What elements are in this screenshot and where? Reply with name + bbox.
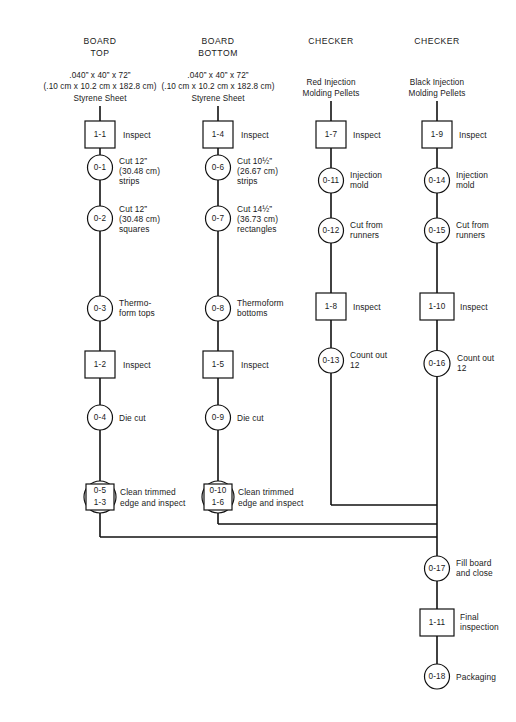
node-0-2[interactable]: 0-2 Cut 12” (30.48 cm) squares bbox=[88, 204, 161, 234]
node-label-line2: (30.48 cm) bbox=[119, 214, 160, 224]
node-0-4[interactable]: 0-4 Die cut bbox=[88, 405, 147, 430]
node-id-text: 0-14 bbox=[428, 176, 445, 185]
node-id-text: 0-4 bbox=[94, 413, 107, 422]
node-label-line1: Inspect bbox=[241, 360, 269, 370]
node-label-line3: strips bbox=[119, 176, 140, 186]
node-0-5-1-3[interactable]: 0-5 1-3 Clean trimmed edge and inspect bbox=[84, 481, 186, 513]
node-label-line2: form tops bbox=[119, 308, 155, 318]
node-1-8[interactable]: 1-8 Inspect bbox=[316, 293, 381, 320]
node-0-6[interactable]: 0-6 Cut 10½” (26.67 cm) strips bbox=[206, 155, 279, 186]
column-heading-checker-black: CHECKER Black Injection Molding Pellets bbox=[408, 36, 465, 98]
node-label-line2: runners bbox=[456, 230, 485, 240]
node-label-line1: Thermoform bbox=[237, 298, 284, 308]
node-label-line1: Cut from bbox=[350, 220, 383, 230]
heading-line2: BOTTOM bbox=[198, 48, 238, 58]
node-label-line1: Inspect bbox=[459, 130, 487, 140]
node-label-line2: (26.67 cm) bbox=[237, 166, 278, 176]
node-label-line1: Thermo- bbox=[119, 298, 151, 308]
node-id-text: 0-15 bbox=[428, 226, 445, 235]
node-id-text: 0-12 bbox=[322, 226, 339, 235]
node-0-16[interactable]: 0-16 Count out 12 bbox=[424, 351, 495, 377]
material-line2: (.10 cm x 10.2 cm x 182.8 cm) bbox=[43, 82, 156, 91]
node-label-line3: rectangles bbox=[237, 224, 277, 234]
node-label-line2: inspection bbox=[460, 622, 499, 632]
process-flow-diagram: BOARD TOP .040” x 40” x 72” (.10 cm x 10… bbox=[0, 0, 516, 722]
node-id-text: 1-2 bbox=[94, 360, 107, 369]
node-0-15[interactable]: 0-15 Cut from runners bbox=[425, 218, 489, 243]
node-0-11[interactable]: 0-11 Injection mold bbox=[319, 168, 383, 193]
node-label-line2: edge and inspect bbox=[238, 498, 304, 508]
node-id-text: 0-10 bbox=[209, 486, 226, 495]
material-line3: Styrene Sheet bbox=[191, 94, 245, 103]
node-label-line1: Clean trimmed bbox=[120, 487, 176, 497]
material-line1: .040” x 40” x 72” bbox=[69, 71, 130, 80]
material-line3: Styrene Sheet bbox=[73, 94, 127, 103]
node-1-4[interactable]: 1-4 Inspect bbox=[203, 121, 269, 148]
node-label-line2: and close bbox=[456, 568, 493, 578]
node-label-line2: mold bbox=[350, 180, 369, 190]
column-heading-board-top: BOARD TOP .040” x 40” x 72” (.10 cm x 10… bbox=[43, 36, 156, 103]
node-0-13[interactable]: 0-13 Count out 12 bbox=[319, 348, 388, 373]
node-1-1[interactable]: 1-1 Inspect bbox=[85, 121, 151, 148]
node-id-text: 0-1 bbox=[94, 163, 107, 172]
node-0-18[interactable]: 0-18 Packaging bbox=[425, 664, 497, 689]
node-id-text: 0-13 bbox=[322, 356, 339, 365]
node-label-line1: Final bbox=[460, 612, 479, 622]
material-line2: Molding Pellets bbox=[302, 89, 359, 98]
node-id-text: 1-8 bbox=[325, 302, 338, 311]
node-label-line1: Injection bbox=[350, 170, 382, 180]
node-id-text: 1-5 bbox=[212, 360, 225, 369]
node-label-line1: Clean trimmed bbox=[238, 487, 294, 497]
node-label-line1: Packaging bbox=[456, 672, 496, 682]
node-0-8[interactable]: 0-8 Thermoform bottoms bbox=[206, 296, 284, 321]
material-line1: Red Injection bbox=[306, 78, 355, 87]
heading-line2: TOP bbox=[90, 48, 109, 58]
node-id-text: 1-1 bbox=[94, 130, 107, 139]
node-label-line1: Injection bbox=[456, 170, 488, 180]
node-label-line1: Cut 10½” bbox=[237, 156, 272, 166]
node-id-text: 0-16 bbox=[428, 359, 445, 368]
node-label-line2: runners bbox=[350, 230, 379, 240]
node-id-text: 0-11 bbox=[323, 176, 340, 185]
node-id-text: 0-7 bbox=[212, 214, 225, 223]
node-1-2[interactable]: 1-2 Inspect bbox=[85, 351, 151, 378]
heading-line1: BOARD bbox=[83, 36, 116, 46]
node-id-text: 1-9 bbox=[431, 130, 444, 139]
node-label-line1: Count out bbox=[350, 350, 388, 360]
flow-chart-canvas: BOARD TOP .040” x 40” x 72” (.10 cm x 10… bbox=[0, 0, 516, 722]
material-line2: (.10 cm x 10.2 cm x 182.8 cm) bbox=[161, 82, 274, 91]
heading-line1: CHECKER bbox=[308, 36, 354, 46]
node-0-3[interactable]: 0-3 Thermo- form tops bbox=[88, 296, 155, 321]
node-0-10-1-6[interactable]: 0-10 1-6 Clean trimmed edge and inspect bbox=[202, 481, 304, 513]
node-0-17[interactable]: 0-17 Fill board and close bbox=[425, 556, 493, 581]
node-label-line1: Cut 12” bbox=[119, 204, 147, 214]
heading-line1: CHECKER bbox=[414, 36, 460, 46]
node-label-line1: Inspect bbox=[241, 130, 269, 140]
node-id-text-secondary: 1-3 bbox=[94, 498, 107, 507]
node-0-14[interactable]: 0-14 Injection mold bbox=[425, 168, 489, 193]
node-0-12[interactable]: 0-12 Cut from runners bbox=[319, 218, 383, 243]
node-id-text: 0-9 bbox=[212, 413, 225, 422]
node-label-line3: strips bbox=[237, 176, 258, 186]
node-label-line1: Inspect bbox=[353, 130, 381, 140]
node-label-line1: Count out bbox=[457, 353, 495, 363]
node-label-line1: Cut 14½” bbox=[237, 204, 272, 214]
node-1-5[interactable]: 1-5 Inspect bbox=[203, 351, 269, 378]
node-0-1[interactable]: 0-1 Cut 12” (30.48 cm) strips bbox=[88, 155, 161, 186]
node-1-9[interactable]: 1-9 Inspect bbox=[422, 121, 487, 148]
node-label-line1: Die cut bbox=[119, 413, 146, 423]
node-label-line1: Cut from bbox=[456, 220, 489, 230]
node-id-text-secondary: 1-6 bbox=[212, 498, 225, 507]
node-label-line2: (30.48 cm) bbox=[119, 166, 160, 176]
node-0-9[interactable]: 0-9 Die cut bbox=[206, 405, 265, 430]
node-id-text: 0-17 bbox=[428, 564, 445, 573]
node-1-7[interactable]: 1-7 Inspect bbox=[316, 121, 381, 148]
node-label-line2: bottoms bbox=[237, 308, 268, 318]
node-id-text: 1-4 bbox=[212, 130, 225, 139]
node-id-text: 0-18 bbox=[428, 672, 445, 681]
node-0-7[interactable]: 0-7 Cut 14½” (36.73 cm) rectangles bbox=[206, 204, 279, 234]
node-1-10[interactable]: 1-10 Inspect bbox=[420, 293, 488, 320]
column-heading-checker-red: CHECKER Red Injection Molding Pellets bbox=[302, 36, 359, 98]
node-1-11[interactable]: 1-11 Final inspection bbox=[420, 609, 499, 636]
node-id-text: 0-3 bbox=[94, 304, 107, 313]
